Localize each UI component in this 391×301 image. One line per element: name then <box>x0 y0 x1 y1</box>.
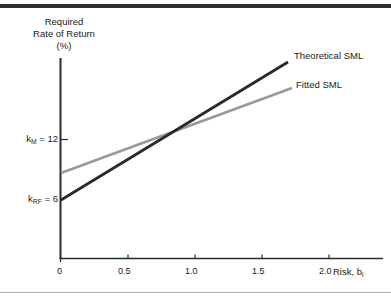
x-tick-label-0.5: 0.5 <box>118 266 131 276</box>
fitted-sml-label: Fitted SML <box>296 79 342 90</box>
x-axis-title-subscript: i <box>362 271 364 278</box>
y-tick-equals-krf: = <box>42 193 53 204</box>
y-tick-label-km: kM = 12 <box>14 133 58 144</box>
y-tick-label-krf: kRF = 6 <box>14 193 58 204</box>
theoretical-sml-line <box>61 62 288 200</box>
y-tick-equals-km: = <box>37 133 48 144</box>
x-tick-label-1.5: 1.5 <box>252 266 265 276</box>
chart-figure: Required Rate of Return (%) kM = 12 kRF … <box>0 0 391 301</box>
x-tick-label-0: 0 <box>57 266 62 276</box>
y-tick-subscript-krf: RF <box>33 198 42 205</box>
y-tick-value-km: 12 <box>47 133 58 144</box>
x-tick-label-1.0: 1.0 <box>185 266 198 276</box>
plot-area <box>0 0 391 301</box>
y-tick-value-krf: 6 <box>53 193 58 204</box>
x-axis-title-main: Risk, b <box>333 266 362 277</box>
y-tick-subscript-km: M <box>31 138 37 145</box>
theoretical-sml-label: Theoretical SML <box>294 50 363 61</box>
x-tick-label-2.0: 2.0 <box>319 266 332 276</box>
x-axis-title: Risk, bi <box>333 266 364 277</box>
